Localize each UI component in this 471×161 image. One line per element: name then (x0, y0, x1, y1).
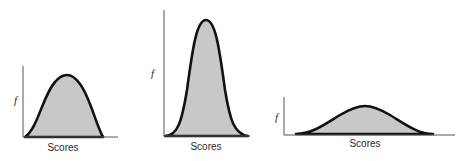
x-axis-label: Scores (349, 138, 380, 149)
panel-tall-narrow: f Scores (151, 10, 250, 152)
panel-moderate: f Scores (14, 66, 118, 153)
curve-area (296, 106, 433, 134)
frequency-distributions-figure: f Scores f Scores f Scores (0, 0, 471, 161)
y-axis-label: f (151, 67, 156, 79)
y-axis-label: f (14, 94, 19, 106)
panel-flat-wide: f Scores (275, 97, 455, 149)
x-axis-label: Scores (47, 142, 78, 153)
curve-area (165, 20, 248, 136)
x-axis-label: Scores (190, 141, 221, 152)
curve-area (25, 75, 103, 137)
y-axis-label: f (275, 111, 280, 123)
